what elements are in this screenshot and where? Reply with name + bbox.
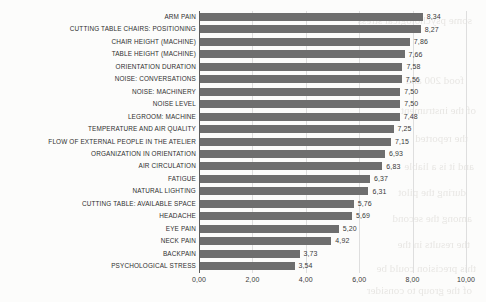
category-label: LEGROOM: MACHINE [128,111,196,123]
bar-value-label: 6,31 [372,186,386,197]
bar-row[interactable]: 7,50 [199,98,486,110]
bar[interactable] [200,212,352,220]
category-axis-labels: ARM PAINCUTTING TABLE CHAIRS: POSITIONIN… [0,11,196,273]
bar-row[interactable]: 7,25 [199,123,486,135]
bar[interactable] [200,75,402,83]
category-label: CUTTING TABLE CHAIRS: POSITIONING [70,23,196,35]
bar-value-label: 3,73 [304,248,318,259]
bar-value-label: 8,27 [425,24,439,35]
bar-value-label: 5,20 [343,223,357,234]
bar-row[interactable]: 8,27 [199,23,486,35]
bar-value-label: 5,76 [358,198,372,209]
bar-value-label: 8,34 [427,11,441,22]
bar-row[interactable]: 5,76 [199,198,486,210]
category-label: NOISE LEVEL [153,98,196,110]
category-label: EYE PAIN [166,223,196,235]
category-label: HEADACHE [159,210,196,222]
plot-area: 8,348,277,867,667,587,567,507,507,487,25… [199,11,466,273]
bar-row[interactable]: 3,73 [199,248,486,260]
category-label: TEMPERATURE AND AIR QUALITY [88,123,196,135]
bar-value-label: 6,83 [386,161,400,172]
x-tick-label: 4,00 [299,276,313,283]
x-tick-label: 6,00 [352,276,366,283]
bar-row[interactable]: 6,93 [199,148,486,160]
bar-series: 8,348,277,867,667,587,567,507,507,487,25… [199,11,466,273]
bar-row[interactable]: 4,92 [199,235,486,247]
bar[interactable] [200,225,339,233]
category-label: ORIENTATION DURATION [116,61,196,73]
bar-value-label: 7,86 [414,36,428,47]
bar[interactable] [200,50,405,58]
bar-row[interactable]: 7,56 [199,73,486,85]
category-label: ORGANIZATION IN ORIENTATION [91,148,196,160]
category-label: FATIGUE [168,173,196,185]
bar-row[interactable]: 5,20 [199,223,486,235]
bar-value-label: 7,56 [406,74,420,85]
bar[interactable] [200,250,300,258]
category-label: NOISE: MACHINERY [132,86,196,98]
category-label: CHAIR HEIGHT (MACHINE) [112,36,197,48]
bar[interactable] [200,262,295,270]
bar-value-label: 7,15 [395,136,409,147]
bar-value-label: 6,37 [374,173,388,184]
bar[interactable] [200,13,423,21]
bar-value-label: 5,69 [356,210,370,221]
bar-row[interactable]: 7,15 [199,136,486,148]
bar[interactable] [200,138,391,146]
bar[interactable] [200,25,421,33]
bar-row[interactable]: 8,34 [199,11,486,23]
bar[interactable] [200,125,394,133]
category-label: NOISE: CONVERSATIONS [115,73,196,85]
bar[interactable] [200,187,368,195]
category-label: TABLE HEIGHT (MACHINE) [112,48,196,60]
bar-value-label: 7,48 [404,111,418,122]
bar[interactable] [200,200,354,208]
x-tick-label: 0,00 [192,276,206,283]
x-tick-label: 8,00 [406,276,420,283]
bar-value-label: 7,25 [398,123,412,134]
category-label: ARM PAIN [164,11,196,23]
bar-row[interactable]: 7,66 [199,48,486,60]
bar-row[interactable]: 3,54 [199,260,486,272]
category-label: FLOW OF EXTERNAL PEOPLE IN THE ATELIER [48,136,196,148]
category-label: BACKPAIN [163,248,196,260]
x-tick-label: 10,00 [457,276,475,283]
bar[interactable] [200,237,331,245]
x-tick-label: 2,00 [245,276,259,283]
bar-value-label: 7,58 [406,61,420,72]
bar[interactable] [200,113,400,121]
category-label: AIR CIRCULATION [138,160,196,172]
bar[interactable] [200,88,400,96]
bar-row[interactable]: 7,86 [199,36,486,48]
horizontal-bar-chart: ARM PAINCUTTING TABLE CHAIRS: POSITIONIN… [0,0,486,302]
bar-value-label: 3,54 [299,260,313,271]
bar[interactable] [200,175,370,183]
bar[interactable] [200,150,385,158]
bar-value-label: 4,92 [335,235,349,246]
bar-row[interactable]: 7,50 [199,86,486,98]
category-label: NATURAL LIGHTING [133,185,196,197]
bar-row[interactable]: 6,31 [199,185,486,197]
bar-value-label: 6,93 [389,148,403,159]
bar-value-label: 7,50 [404,86,418,97]
bar-row[interactable]: 7,58 [199,61,486,73]
bar[interactable] [200,63,402,71]
bar-row[interactable]: 7,48 [199,111,486,123]
bar-value-label: 7,66 [409,49,423,60]
bar-value-label: 7,50 [404,98,418,109]
category-label: NECK PAIN [161,235,196,247]
bar-row[interactable]: 6,83 [199,160,486,172]
bar-row[interactable]: 5,69 [199,210,486,222]
bar[interactable] [200,162,382,170]
value-axis-tick-labels: 0,002,004,006,008,0010,00 [199,276,466,290]
bar-row[interactable]: 6,37 [199,173,486,185]
category-label: CUTTING TABLE: AVAILABLE SPACE [82,198,196,210]
bar[interactable] [200,100,400,108]
bar[interactable] [200,38,410,46]
category-label: PSYCHOLOGICAL STRESS [111,260,196,272]
